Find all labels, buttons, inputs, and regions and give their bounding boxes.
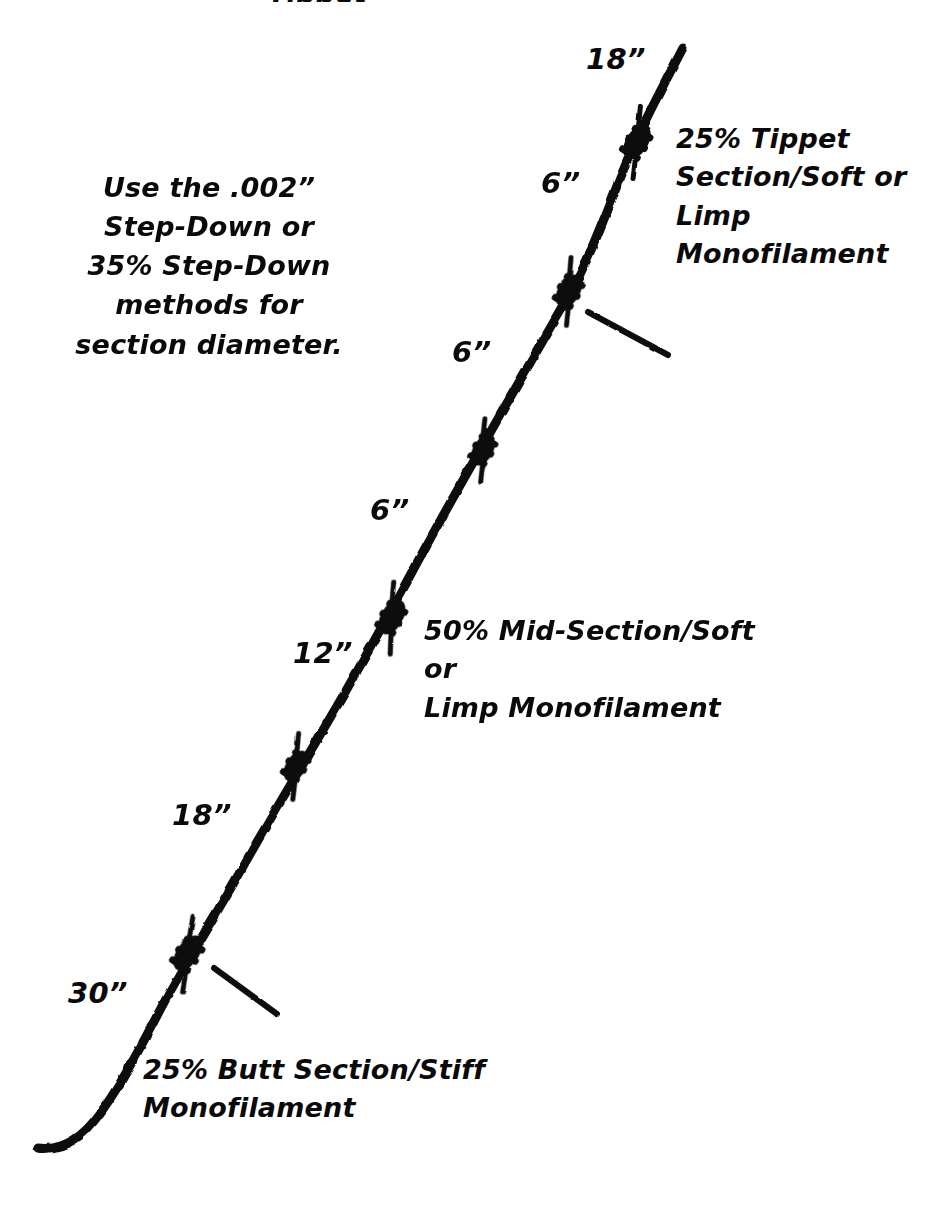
- section-label-mid: 50% Mid-Section/Soft or Limp Monofilamen…: [424, 612, 774, 727]
- section-label-tippet: 25% Tippet Section/Soft or Limp Monofila…: [676, 120, 924, 273]
- pointer-tippet: [588, 312, 668, 355]
- measure-label-6in-upper: 6”: [541, 168, 580, 200]
- measure-label-18in-tip: 18”: [586, 44, 646, 76]
- pointer-butt: [214, 968, 277, 1014]
- measure-label-12in: 12”: [293, 638, 353, 670]
- leader-diagram-page: Tippet: [0, 0, 933, 1216]
- measure-label-6in-lower: 6”: [370, 495, 409, 527]
- measure-label-18in-butt: 18”: [172, 800, 232, 832]
- knot-1: [606, 106, 668, 178]
- measure-label-30in: 30”: [68, 978, 128, 1010]
- step-down-method-note: Use the .002” Step-Down or 35% Step-Down…: [74, 168, 344, 364]
- section-label-butt: 25% Butt Section/Stiff Monofilament: [143, 1051, 703, 1128]
- measure-label-6in-middle: 6”: [452, 337, 491, 369]
